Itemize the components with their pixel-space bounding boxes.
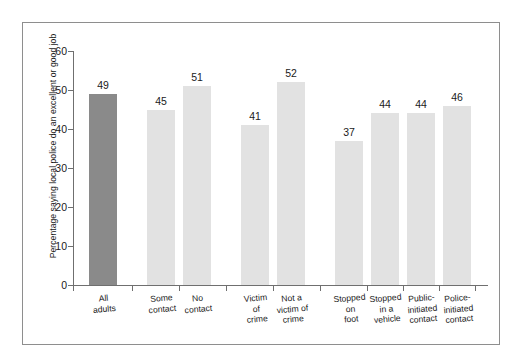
bar: 52 [277,82,305,285]
x-tick-mark [226,286,227,291]
x-tick-mark [320,286,321,291]
x-axis-label: Some contact [147,292,176,315]
x-axis-label: All adults [92,292,117,315]
y-tick-label: 30 [43,162,67,174]
bar-value-label: 41 [249,110,261,122]
x-tick-mark [273,286,274,291]
y-tick-label: 10 [43,240,67,252]
bar-value-label: 45 [155,95,167,107]
x-tick-mark [132,286,133,291]
x-tick-mark [439,286,440,291]
bar: 44 [407,113,435,285]
x-tick-mark [403,286,404,291]
x-axis-label: Stopped on foot [333,292,368,326]
bar: 49 [89,94,117,285]
y-tick-mark [68,207,73,208]
y-tick-label: 20 [43,201,67,213]
x-axis-label: No contact [183,292,212,315]
bar: 51 [183,86,211,285]
x-axis-label: Public- initiated contact [406,292,438,326]
bar: 37 [335,141,363,285]
plot-area: 0102030405060 494551415237444446 All adu… [73,51,488,285]
x-axis-label: Not a victim of crime [275,292,309,326]
x-axis-label: Police- initiated contact [442,292,474,326]
bar-value-label: 44 [415,98,427,110]
bar-value-label: 46 [451,91,463,103]
y-tick-mark [68,90,73,91]
y-tick-label: 60 [43,45,67,57]
bar: 46 [443,106,471,285]
y-tick-mark [68,129,73,130]
y-tick-mark [68,168,73,169]
bar-value-label: 52 [285,67,297,79]
bar-value-label: 49 [97,79,109,91]
x-tick-mark [367,286,368,291]
y-tick-label: 40 [43,123,67,135]
y-tick-mark [68,246,73,247]
bar: 44 [371,113,399,285]
y-axis-line [73,51,74,285]
y-tick-label: 50 [43,84,67,96]
bar-value-label: 44 [379,98,391,110]
chart-figure-frame: Percentage saying local police do an exc… [22,22,500,345]
bar: 45 [147,110,175,286]
x-axis-line [73,285,488,286]
x-axis-label: Victim of crime [243,292,269,325]
y-tick-label: 0 [43,279,67,291]
x-tick-mark [475,286,476,291]
x-axis-label: Stopped in a vehicle [369,292,404,326]
y-tick-mark [68,51,73,52]
x-tick-mark [73,286,74,291]
bar: 41 [241,125,269,285]
bar-value-label: 37 [343,126,355,138]
bar-value-label: 51 [191,71,203,83]
x-tick-mark [179,286,180,291]
